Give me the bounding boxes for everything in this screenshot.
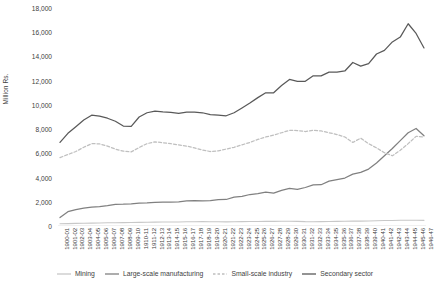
x-axis-tick: 1931-32 (308, 228, 315, 250)
x-axis-tick: 1927-28 (276, 228, 283, 250)
x-axis-tick: 1941-42 (387, 228, 394, 250)
x-axis-tick: 1934-35 (332, 228, 339, 250)
x-axis-tick: 1900-01 (63, 228, 70, 250)
legend-swatch-icon (302, 271, 316, 277)
x-axis-tick: 1926-27 (268, 228, 275, 250)
x-axis-tick: 1924-25 (253, 228, 260, 250)
x-axis-tick: 1932-33 (316, 228, 323, 250)
legend-swatch-icon (105, 271, 119, 277)
x-axis-tick: 1935-36 (340, 228, 347, 250)
x-axis-tick: 1913-14 (165, 228, 172, 250)
plot-area (58, 8, 426, 226)
x-axis-tick: 1925-26 (260, 228, 267, 250)
legend-label: Large-scale manufacturing (123, 270, 203, 277)
x-axis-tick: 1908-09 (126, 228, 133, 250)
x-axis-tick: 1933-34 (324, 228, 331, 250)
x-axis-tick: 1903-04 (86, 228, 93, 250)
y-axis-tick: 14,000 (32, 53, 52, 60)
series-canvas (58, 8, 426, 226)
y-axis-tick: 18,000 (32, 5, 52, 12)
x-axis-tick: 1902-03 (78, 228, 85, 250)
legend-swatch-icon (213, 271, 227, 277)
x-axis-tick: 1940-41 (379, 228, 386, 250)
x-axis-tick: 1905-06 (102, 228, 109, 250)
y-axis-tick: 12,000 (32, 77, 52, 84)
x-axis-tick: 1930-31 (300, 228, 307, 250)
x-axis-tick: 1939-40 (371, 228, 378, 250)
x-axis-tick: 1901-02 (71, 228, 78, 250)
y-axis-tick: 6,000 (35, 150, 52, 157)
y-axis-tick: 0 (48, 223, 52, 230)
series-line-secondary-sector (60, 24, 424, 143)
y-axis-tick-labels: 18,00016,00014,00012,00010,0008,0006,000… (0, 0, 56, 293)
series-line-large-scale-manufacturing (60, 129, 424, 218)
x-axis-tick: 1904-05 (94, 228, 101, 250)
x-axis-tick: 1929-30 (292, 228, 299, 250)
x-axis-tick: 1907-08 (118, 228, 125, 250)
x-axis-tick: 1909-10 (134, 228, 141, 250)
x-axis-tick: 1928-29 (284, 228, 291, 250)
legend-label: Secondary sector (320, 270, 373, 277)
x-axis-tick: 1912-13 (158, 228, 165, 250)
y-axis-tick: 10,000 (32, 101, 52, 108)
legend-item-mining[interactable]: Mining (57, 270, 95, 277)
y-axis-tick: 4,000 (35, 174, 52, 181)
x-axis-tick: 1943-44 (403, 228, 410, 250)
x-axis-tick-labels: 1900-011901-021902-031903-041904-051905-… (58, 228, 426, 266)
legend-label: Small-scale industry (231, 270, 292, 277)
y-axis-tick: 2,000 (35, 198, 52, 205)
x-axis-tick: 1944-45 (411, 228, 418, 250)
x-axis-tick: 1942-43 (395, 228, 402, 250)
x-axis-tick: 1915-16 (181, 228, 188, 250)
chart-legend: MiningLarge-scale manufacturingSmall-sca… (0, 270, 430, 277)
x-axis-tick: 1922-23 (237, 228, 244, 250)
legend-label: Mining (75, 270, 95, 277)
x-axis-tick: 1910-11 (142, 228, 149, 249)
x-axis-tick: 1918-19 (205, 228, 212, 250)
x-axis-tick: 1919-20 (213, 228, 220, 250)
x-axis-tick: 1945-46 (419, 228, 426, 250)
legend-item-small-scale-industry[interactable]: Small-scale industry (213, 270, 292, 277)
x-axis-tick: 1911-12 (150, 228, 157, 249)
x-axis-tick: 1916-17 (189, 228, 196, 250)
y-axis-tick: 16,000 (32, 29, 52, 36)
legend-swatch-icon (57, 271, 71, 277)
y-axis-tick: 8,000 (35, 126, 52, 133)
series-line-mining (60, 220, 424, 224)
legend-item-large-scale-manufacturing[interactable]: Large-scale manufacturing (105, 270, 203, 277)
x-axis-tick: 1921-22 (229, 228, 236, 250)
x-axis-tick: 1920-21 (221, 228, 228, 250)
x-axis-tick: 1937-38 (355, 228, 362, 250)
series-line-small-scale-industry (60, 130, 424, 157)
x-axis-tick: 1923-24 (245, 228, 252, 250)
x-axis-tick: 1906-07 (110, 228, 117, 250)
x-axis-tick: 1917-18 (197, 228, 204, 250)
x-axis-tick: 1936-37 (347, 228, 354, 250)
x-axis-tick: 1946-47 (427, 228, 434, 250)
legend-item-secondary-sector[interactable]: Secondary sector (302, 270, 373, 277)
x-axis-tick: 1938-39 (363, 228, 370, 250)
x-axis-tick: 1914-15 (173, 228, 180, 250)
